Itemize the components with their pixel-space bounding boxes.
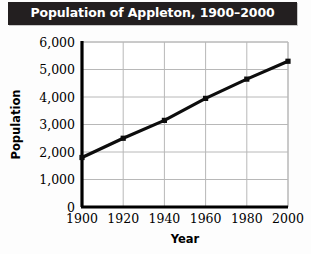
x-axis-tick-label-5: 2000 [272, 211, 304, 226]
x-axis-tick-label-0: 1900 [66, 211, 98, 226]
population-chart-figure: Population of Appleton, 1900–2000 01,000… [0, 0, 311, 254]
y-axis-tick-label-4: 4,000 [39, 90, 75, 105]
x-axis-tick-label-2: 1940 [148, 211, 180, 226]
data-point-marker-1900 [79, 155, 84, 160]
x-axis-tick-label-4: 1980 [231, 211, 263, 226]
y-axis-tick-label-6: 6,000 [39, 35, 75, 50]
chart-svg: 01,0002,0003,0004,0005,0006,000190019201… [0, 30, 311, 254]
y-axis-title: Population [9, 90, 23, 160]
chart-title-bar: Population of Appleton, 1900–2000 [8, 2, 297, 25]
chart-plot-container: 01,0002,0003,0004,0005,0006,000190019201… [0, 30, 311, 254]
data-point-marker-1960 [203, 96, 208, 101]
data-point-marker-1920 [121, 136, 126, 141]
data-point-marker-2000 [285, 59, 290, 64]
y-axis-tick-label-2: 2,000 [39, 145, 75, 160]
y-axis-tick-label-1: 1,000 [39, 172, 75, 187]
x-axis-title: Year [170, 232, 200, 246]
data-point-marker-1980 [244, 77, 249, 82]
y-axis-tick-label-3: 3,000 [39, 117, 75, 132]
y-axis-tick-label-5: 5,000 [39, 62, 75, 77]
data-point-marker-1940 [162, 118, 167, 123]
x-axis-tick-label-3: 1960 [190, 211, 222, 226]
page-title: Population of Appleton, 1900–2000 [30, 7, 274, 20]
x-axis-tick-label-1: 1920 [107, 211, 139, 226]
